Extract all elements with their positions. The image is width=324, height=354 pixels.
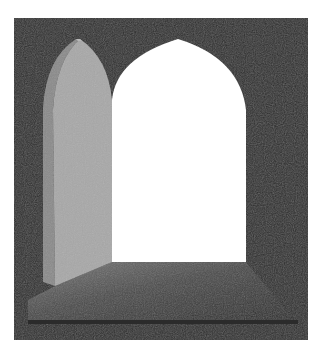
door-panel [53, 39, 112, 286]
arched-opening [112, 39, 246, 262]
doorway-svg [0, 0, 324, 354]
doorway-illustration: Open arched doorway [0, 0, 324, 354]
floor-band [28, 320, 298, 324]
